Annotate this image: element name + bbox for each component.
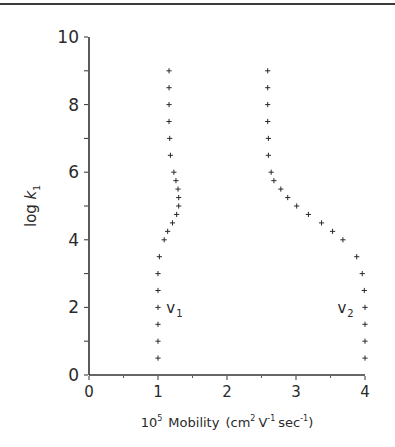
data-series — [155, 68, 367, 361]
x-tick-label: 2 — [222, 383, 232, 401]
plus-marker — [155, 305, 160, 310]
y-axis-label: log k1 — [22, 185, 42, 227]
y-tick-label: 10 — [57, 27, 79, 47]
plus-marker — [171, 170, 176, 175]
plus-marker — [306, 212, 311, 217]
y-tick-label: 0 — [68, 365, 79, 385]
plus-marker — [265, 85, 270, 90]
plus-marker — [285, 195, 290, 200]
plus-marker — [155, 356, 160, 361]
plus-marker — [362, 356, 367, 361]
plus-marker — [162, 237, 167, 242]
plus-marker — [278, 187, 283, 192]
y-tick-label: 2 — [68, 297, 79, 317]
plus-marker — [157, 254, 162, 259]
plus-marker — [174, 212, 179, 217]
plus-marker — [340, 237, 345, 242]
axes — [89, 37, 365, 375]
plus-marker — [265, 68, 270, 73]
y-tick-label: 4 — [68, 230, 79, 250]
plus-marker — [362, 322, 367, 327]
plus-marker — [170, 220, 175, 225]
plus-marker — [166, 102, 171, 107]
plus-marker — [294, 203, 299, 208]
plus-marker — [173, 178, 178, 183]
plus-marker — [176, 203, 181, 208]
plus-marker — [167, 136, 172, 141]
series-labels: v1v2 — [166, 299, 353, 319]
plus-marker — [168, 153, 173, 158]
plus-marker — [362, 305, 367, 310]
plus-marker — [155, 322, 160, 327]
plus-marker — [265, 119, 270, 124]
x-tick-label: 0 — [84, 383, 94, 401]
plus-marker — [155, 339, 160, 344]
plus-marker — [266, 136, 271, 141]
plus-marker — [266, 153, 271, 158]
x-axis-label: 105Mobility(cm2V-1sec-1) — [141, 414, 314, 430]
plus-marker — [165, 229, 170, 234]
y-tick-label: 6 — [68, 162, 79, 182]
plus-marker — [155, 271, 160, 276]
plus-marker — [166, 85, 171, 90]
plus-marker — [319, 220, 324, 225]
plus-marker — [265, 102, 270, 107]
plus-marker — [362, 339, 367, 344]
x-axis-ticks: 01234 — [84, 376, 370, 401]
plus-marker — [269, 170, 274, 175]
plus-marker — [330, 229, 335, 234]
series-label-v2: v2 — [337, 299, 353, 319]
plus-marker — [360, 271, 365, 276]
plus-marker — [362, 288, 367, 293]
plus-marker — [176, 195, 181, 200]
plus-marker — [175, 187, 180, 192]
x-tick-label: 1 — [153, 383, 163, 401]
plus-marker — [354, 254, 359, 259]
scatter-plot: 0246810 01234 v1v2 log k1 105Mobility(cm… — [0, 0, 395, 447]
plus-marker — [166, 68, 171, 73]
x-tick-label: 4 — [360, 383, 370, 401]
x-tick-label: 3 — [291, 383, 301, 401]
plus-marker — [271, 178, 276, 183]
series-label-v1: v1 — [166, 299, 182, 319]
y-tick-label: 8 — [68, 95, 79, 115]
plus-marker — [166, 119, 171, 124]
y-axis-ticks: 0246810 — [57, 27, 88, 385]
plus-marker — [155, 288, 160, 293]
chart-figure: 0246810 01234 v1v2 log k1 105Mobility(cm… — [0, 0, 395, 447]
